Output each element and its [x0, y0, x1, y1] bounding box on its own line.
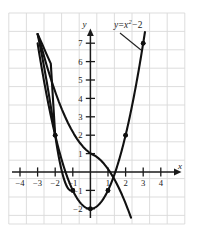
- y-tick-label: −2: [73, 204, 82, 214]
- y-tick-label: 5: [78, 75, 82, 85]
- x-axis-name: x: [177, 161, 182, 171]
- x-tick-label: 3: [141, 178, 145, 188]
- x-tick-label: −4: [15, 178, 25, 188]
- x-tick-label: 1: [106, 178, 110, 188]
- x-tick-labels: −4 −3 −2 −1 1 2 3 4: [15, 178, 163, 188]
- equation-annotation: y=x2−2: [114, 18, 143, 30]
- y-tick-label: 3: [78, 112, 82, 122]
- data-point: [141, 41, 146, 46]
- y-tick-labels: 7 6 5 4 3 2 1 −1 −2: [73, 38, 83, 214]
- parabola-figure: −4 −3 −2 −1 1 2 3 4 7 6 5 4 3 2 1 −1 −2 …: [0, 0, 201, 232]
- data-point: [88, 207, 93, 212]
- data-point: [106, 188, 111, 193]
- axis-labels-layer: −4 −3 −2 −1 1 2 3 4 7 6 5 4 3 2 1 −1 −2 …: [0, 0, 201, 232]
- data-point: [71, 188, 76, 193]
- y-tick-label: 1: [78, 149, 82, 159]
- equation-constant: 2: [138, 20, 143, 30]
- y-tick-label: 4: [78, 94, 83, 104]
- y-tick-label: 7: [78, 38, 83, 48]
- y-axis-name: y: [82, 19, 87, 29]
- y-tick-label: 6: [78, 57, 83, 67]
- x-tick-label: 4: [159, 178, 164, 188]
- y-tick-label: 2: [78, 130, 82, 140]
- x-tick-label: −2: [51, 178, 60, 188]
- data-point: [53, 133, 58, 138]
- x-tick-label: −3: [33, 178, 42, 188]
- data-point: [123, 133, 128, 138]
- data-point-markers: [53, 41, 146, 211]
- x-tick-label: 2: [123, 178, 127, 188]
